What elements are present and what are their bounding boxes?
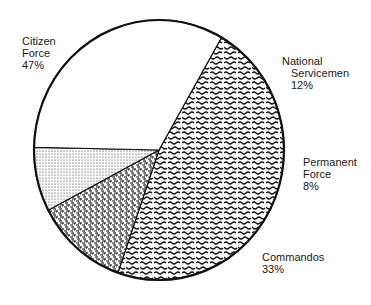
label-line: Force: [303, 168, 357, 180]
label-line: Permanent: [303, 156, 357, 168]
label-line: National: [282, 55, 349, 67]
label-line: Servicemen: [282, 67, 349, 79]
slice-label-national-servicemen: National Servicemen 12%: [282, 55, 349, 91]
pie-slices: [34, 20, 284, 280]
slice-label-citizen-force: Citizen Force 47%: [22, 35, 56, 71]
slice-label-commandos: Commandos 33%: [262, 251, 324, 275]
label-value: 12%: [282, 79, 349, 91]
label-value: 47%: [22, 59, 56, 71]
label-line: Commandos: [262, 251, 324, 263]
slice-label-permanent-force: Permanent Force 8%: [303, 156, 357, 192]
label-value: 8%: [303, 180, 357, 192]
label-line: Citizen: [22, 35, 56, 47]
label-line: Force: [22, 47, 56, 59]
label-value: 33%: [262, 263, 324, 275]
